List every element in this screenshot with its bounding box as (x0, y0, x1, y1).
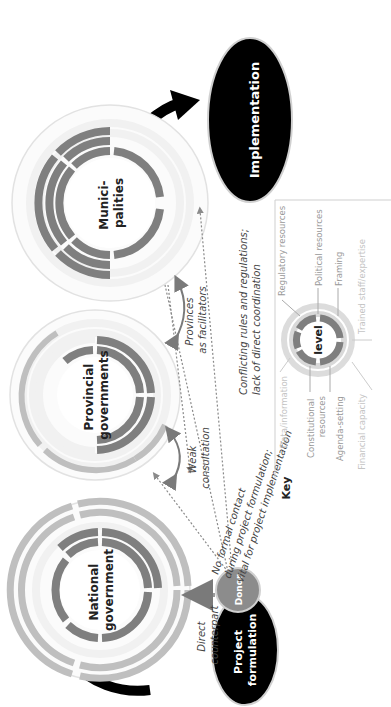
svg-text:Constitutional resources: Constitutional resources (306, 395, 327, 457)
key-agenda: Agenda-setting (335, 396, 345, 461)
svg-text:Provincial governments: Provincial governments (82, 350, 111, 439)
provincial-label-1: Provincial (82, 364, 96, 431)
legend-key: Key level Regulatory resources Political… (275, 200, 391, 499)
provincial-label-2: governments (97, 350, 111, 439)
key-ring: level (284, 306, 352, 374)
implementation-node: Implementation (208, 38, 292, 202)
svg-text:National government: National government (87, 549, 116, 631)
national-label-2: government (102, 549, 116, 631)
key-regulatory: Regulatory resources (277, 205, 287, 296)
svg-text:Weak consultation: Weak consultation (187, 427, 211, 488)
key-data: Data/information (279, 376, 289, 448)
provinces-facilitators-2: as facilitators (197, 286, 208, 353)
provincial-node: Provincial governments (10, 310, 180, 480)
direct-counterpart-link: Direct counterpart (196, 595, 220, 664)
direct-counterpart-1: Direct (196, 620, 207, 651)
conflicting-rules-2: lack of direct coordination (251, 264, 262, 395)
weak-consultation-1: Weak (187, 444, 198, 473)
municipalities-node: Munici- palities (12, 105, 208, 301)
national-label-1: National (87, 564, 101, 621)
svg-text:Conflicting rules and regulati: Conflicting rules and regulations; lack … (238, 226, 262, 395)
svg-text:Direct counterpart: Direct counterpart (196, 604, 220, 664)
key-title: Key (280, 477, 293, 500)
key-political: Political resources (314, 209, 324, 286)
key-financial: Financial capacity (357, 394, 367, 470)
provinces-facilitators-1: Provinces (184, 298, 195, 346)
municipalities-label-1: Munici- (97, 180, 111, 229)
key-constitutional-1: Constitutional (306, 399, 316, 458)
key-center-label: level (312, 325, 325, 355)
conflicting-rules-1: Conflicting rules and regulations; (238, 229, 249, 395)
implementation-label: Implementation (247, 62, 262, 178)
key-constitutional-2: resources (317, 395, 327, 437)
municipalities-label-2: palities (112, 178, 126, 228)
weak-consultation-2: consultation (200, 427, 211, 488)
direct-counterpart-2: counterpart (209, 604, 220, 664)
key-framing: Framing (334, 252, 344, 286)
policy-levels-diagram: Munici- palities Provincial governments (0, 0, 391, 707)
national-node: National government (10, 500, 190, 680)
project-formulation-label-1: Project (232, 630, 245, 674)
project-formulation-label-2: formulation (246, 614, 259, 687)
svg-text:Munici- palities: Munici- palities (97, 176, 126, 230)
svg-text:Provinces as facilitators: Provinces as facilitators (184, 286, 208, 353)
key-trained-staff: Trained staff/expertise (357, 239, 367, 335)
